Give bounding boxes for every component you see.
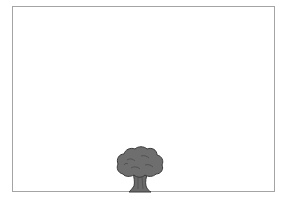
- tree-sprite[interactable]: [115, 146, 165, 193]
- tree-icon: [115, 146, 165, 193]
- game-stage[interactable]: [12, 6, 275, 192]
